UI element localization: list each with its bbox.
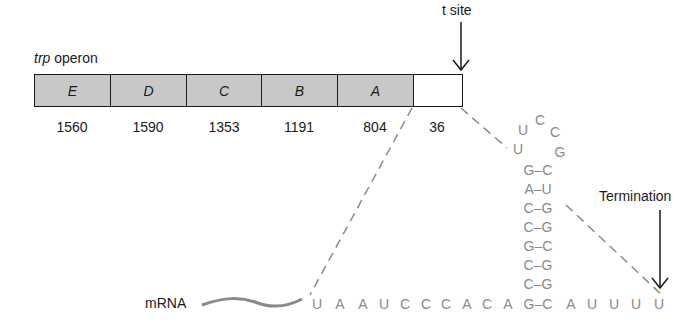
nt: C: [419, 296, 433, 312]
nt: C: [439, 296, 453, 312]
nt: A: [501, 296, 515, 312]
nt: U: [310, 296, 324, 312]
nt: A: [333, 296, 347, 312]
loop-nt: C: [533, 112, 547, 128]
stem-pair: C–G: [518, 257, 558, 273]
stem-pair: A–U: [518, 181, 558, 197]
nt: U: [585, 296, 599, 312]
stem-pair: C–G: [518, 200, 558, 216]
nt: A: [356, 296, 370, 312]
stem-pair: C–G: [518, 276, 558, 292]
t-site-arrow-icon: [453, 22, 469, 70]
nt: U: [607, 296, 621, 312]
dashed-termination: [566, 205, 663, 296]
mrna-wave-icon: [202, 299, 302, 307]
nt: C: [480, 296, 494, 312]
stem-pair: G–C: [518, 238, 558, 254]
loop-nt: U: [516, 122, 530, 138]
diagram-lines: [0, 0, 693, 331]
stem-base-pair: G–C: [518, 296, 558, 312]
termination-arrow-icon: [652, 210, 668, 288]
stem-pair: C–G: [518, 219, 558, 235]
loop-nt: G: [553, 144, 567, 160]
loop-nt: U: [511, 141, 525, 157]
dashed-right: [461, 108, 507, 148]
nt: U: [652, 296, 666, 312]
nt: A: [460, 296, 474, 312]
stem-pair: G–C: [518, 162, 558, 178]
loop-nt: C: [548, 124, 562, 140]
nt: U: [629, 296, 643, 312]
dashed-left: [310, 108, 412, 295]
nt: C: [398, 296, 412, 312]
nt: U: [377, 296, 391, 312]
nt: A: [564, 296, 578, 312]
